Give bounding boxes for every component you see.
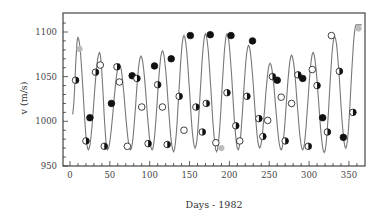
data-point-open xyxy=(309,66,316,73)
y-tick-label: 1050 xyxy=(35,72,57,82)
data-point-open xyxy=(97,62,104,69)
data-point-half xyxy=(314,82,321,89)
data-point-open xyxy=(213,139,220,146)
data-point-filled xyxy=(274,77,281,84)
data-point-gray xyxy=(356,26,362,32)
data-point-open xyxy=(181,127,188,134)
data-point-filled xyxy=(340,134,347,141)
data-point-open xyxy=(124,143,131,150)
data-point-filled xyxy=(228,32,235,39)
data-point-gray xyxy=(219,145,225,151)
data-point-open xyxy=(159,104,166,111)
data-point-half xyxy=(336,68,343,75)
data-point-open xyxy=(116,79,123,86)
data-point-open xyxy=(288,100,295,107)
data-point-half xyxy=(350,109,357,116)
data-point-filled xyxy=(187,32,194,39)
data-point-half xyxy=(154,81,161,88)
data-point-filled xyxy=(108,100,115,107)
y-tick-label: 1000 xyxy=(35,116,57,126)
data-point-half xyxy=(324,129,331,136)
y-axis-title: v (m/s) xyxy=(18,82,29,116)
y-tick-label: 1100 xyxy=(35,27,57,37)
data-point-half xyxy=(101,143,108,150)
data-point-half xyxy=(256,115,263,122)
x-tick-label: 150 xyxy=(181,170,197,180)
data-point-half xyxy=(164,141,171,148)
data-point-half xyxy=(145,140,152,147)
data-point-filled xyxy=(87,114,94,121)
data-point-half xyxy=(224,89,231,96)
data-point-half xyxy=(260,133,267,140)
data-point-half xyxy=(282,138,289,145)
data-point-filled xyxy=(207,31,214,38)
data-point-filled xyxy=(299,75,306,82)
data-point-open xyxy=(328,32,335,39)
radial-velocity-chart: 950100010501100 050100150200250300350 Da… xyxy=(0,0,382,223)
x-axis-title: Days - 1982 xyxy=(186,199,243,210)
data-point-gray xyxy=(77,46,83,52)
x-tick-label: 200 xyxy=(221,170,237,180)
data-point-half xyxy=(305,143,312,150)
x-tick-label: 100 xyxy=(142,170,158,180)
data-point-half xyxy=(199,129,206,136)
x-tick-label: 50 xyxy=(104,170,115,180)
data-point-half xyxy=(244,93,251,100)
x-axis-ticks: 050100150200250300350 xyxy=(67,161,357,180)
data-point-open xyxy=(138,104,145,111)
data-point-half xyxy=(72,77,79,84)
x-tick-label: 300 xyxy=(301,170,317,180)
data-point-filled xyxy=(151,63,158,70)
data-point-open xyxy=(278,94,285,101)
data-point-filled xyxy=(249,38,256,45)
x-tick-label: 250 xyxy=(261,170,277,180)
x-tick-label: 350 xyxy=(341,170,357,180)
x-tick-label: 0 xyxy=(67,170,72,180)
data-point-filled xyxy=(319,114,326,121)
data-point-half xyxy=(114,64,121,71)
data-point-half xyxy=(83,138,90,145)
data-point-open xyxy=(236,138,243,145)
data-point-filled xyxy=(168,55,175,62)
y-tick-label: 950 xyxy=(41,161,57,171)
data-point-half xyxy=(193,104,200,111)
data-point-half xyxy=(134,75,141,82)
data-point-half xyxy=(203,100,210,107)
data-point-open xyxy=(264,117,271,124)
data-point-half xyxy=(176,93,183,100)
data-point-half xyxy=(92,69,99,76)
data-point-half xyxy=(232,122,239,129)
